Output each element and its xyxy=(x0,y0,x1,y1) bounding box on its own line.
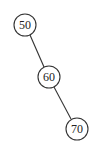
edge-50-60 xyxy=(30,35,44,67)
edge-60-70 xyxy=(54,87,71,119)
tree-node-50: 50 xyxy=(14,14,36,36)
tree-diagram: 50 60 70 xyxy=(0,0,96,150)
tree-node-60: 60 xyxy=(38,66,60,88)
node-label: 50 xyxy=(19,18,31,32)
node-label: 70 xyxy=(71,122,83,136)
tree-node-70: 70 xyxy=(66,118,88,140)
node-label: 60 xyxy=(43,70,55,84)
